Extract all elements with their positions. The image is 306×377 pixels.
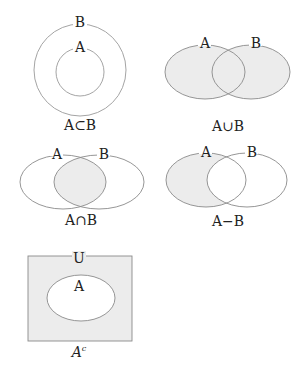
label-b: B xyxy=(251,35,261,51)
diagram-subset: B A A⊂B xyxy=(34,14,126,133)
caption-subset: A⊂B xyxy=(63,117,96,133)
diagram-union: A B A∪B xyxy=(165,35,290,134)
diagram-intersection: A B A∩B xyxy=(20,146,144,228)
diagram-complement: U A Ac xyxy=(28,250,132,360)
label-a: A xyxy=(51,146,63,162)
label-b: B xyxy=(247,144,257,160)
caption-complement: Ac xyxy=(70,344,87,360)
diagram-difference: A B A−B xyxy=(166,144,287,229)
set-a-circle xyxy=(56,48,104,96)
label-a: A xyxy=(73,278,85,294)
label-a: A xyxy=(200,144,212,160)
label-a: A xyxy=(199,35,211,51)
set-b-circle xyxy=(34,24,126,116)
set-operations-figure: B A A⊂B A B A∪B A B A∩B A B A−B xyxy=(0,0,306,377)
label-u: U xyxy=(73,250,85,266)
label-b: B xyxy=(99,146,109,162)
caption-union: A∪B xyxy=(211,118,244,134)
caption-difference: A−B xyxy=(211,213,244,229)
label-a: A xyxy=(74,39,86,55)
label-b: B xyxy=(75,14,85,30)
caption-intersection: A∩B xyxy=(64,212,97,228)
